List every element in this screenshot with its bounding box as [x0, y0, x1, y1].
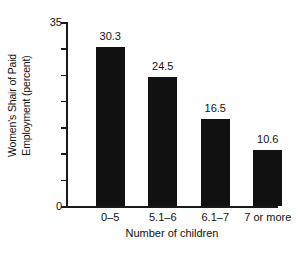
y-axis-title: Women's Shair of Paid Employment (percen… — [0, 0, 40, 210]
y-axis-tick-label-min: 0 — [56, 201, 62, 212]
bar-value-label: 10.6 — [257, 134, 278, 145]
bar-chart-figure: Women's Shair of Paid Employment (percen… — [0, 0, 300, 253]
x-axis-category-label: 7 or more — [244, 212, 291, 223]
x-axis-category-label: 0–5 — [101, 212, 119, 223]
bar[interactable] — [148, 77, 177, 206]
bar-group: 30.30–5 — [96, 22, 125, 206]
y-axis-tick — [61, 127, 67, 129]
bar-value-label: 30.3 — [100, 31, 121, 42]
plot-area: 35 0 30.30–524.55.1–616.56.1–710.67 or m… — [66, 22, 276, 206]
bar[interactable] — [96, 47, 125, 206]
y-axis-tick — [61, 153, 67, 155]
x-axis-line — [66, 206, 278, 208]
y-axis-title-line-2: Employment (percent) — [20, 53, 34, 156]
bar-value-label: 24.5 — [152, 61, 173, 72]
y-axis-tick — [61, 180, 67, 182]
y-axis-tick — [61, 75, 67, 77]
bar-value-label: 16.5 — [205, 103, 226, 114]
y-axis-tick — [61, 48, 67, 50]
x-axis-category-label: 5.1–6 — [149, 212, 177, 223]
bar-group: 24.55.1–6 — [148, 22, 177, 206]
bar-group: 16.56.1–7 — [201, 22, 230, 206]
y-axis-tick — [61, 101, 67, 103]
y-axis-tick-label-max: 35 — [50, 17, 62, 28]
x-axis-category-label: 6.1–7 — [201, 212, 229, 223]
bar[interactable] — [253, 150, 282, 206]
x-axis-title: Number of children — [66, 228, 278, 239]
y-axis-title-line-1: Women's Shair of Paid — [7, 53, 21, 156]
bar-group: 10.67 or more — [253, 22, 282, 206]
bar[interactable] — [201, 119, 230, 206]
